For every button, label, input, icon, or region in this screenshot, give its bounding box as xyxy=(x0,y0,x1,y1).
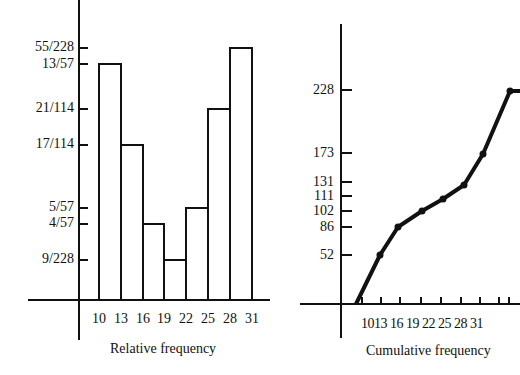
y-tick-label: 228 xyxy=(290,83,334,97)
y-tick-label: 13/57 xyxy=(4,57,74,71)
x-tick-label: 16 xyxy=(390,316,403,331)
y-tick-label: 131 xyxy=(290,175,334,189)
x-tick-label: 28 xyxy=(219,312,241,326)
left-x-caption: Relative frequency xyxy=(110,341,216,357)
x-tick-label: 25 xyxy=(197,312,219,326)
x-tick-label: 16 xyxy=(132,312,154,326)
right-x-caption: Cumulative frequency xyxy=(366,343,491,359)
y-tick-label: 52 xyxy=(290,248,334,262)
bars xyxy=(99,48,252,300)
y-tick-label: 86 xyxy=(290,220,334,234)
x-tick-label: 25 xyxy=(438,316,451,331)
y-tick-label: 55/228 xyxy=(4,40,74,54)
x-tick-label: 13 xyxy=(110,312,132,326)
x-tick-label: 19 xyxy=(153,312,175,326)
y-tick-label: 5/57 xyxy=(4,200,74,214)
x-tick-label: 31 xyxy=(470,316,483,331)
y-tick-label: 111 xyxy=(290,189,334,203)
x-tick-label: 22 xyxy=(175,312,197,326)
x-tick-label: 10 xyxy=(361,316,374,331)
x-tick-label: 31 xyxy=(241,312,263,326)
left-y-ticks xyxy=(79,48,88,260)
x-tick-label: 22 xyxy=(422,316,435,331)
y-tick-label: 4/57 xyxy=(4,216,74,230)
y-tick-label: 17/114 xyxy=(4,137,74,151)
cumulative-line xyxy=(356,91,520,304)
x-tick-label: 13 xyxy=(374,316,387,331)
x-tick-label: 10 xyxy=(88,312,110,326)
data-points xyxy=(377,88,514,259)
right-x-ticks xyxy=(362,297,509,304)
x-tick-label: 19 xyxy=(406,316,419,331)
y-tick-label: 173 xyxy=(290,146,334,160)
right-y-ticks xyxy=(341,90,352,255)
right-x-tick-labels: 1013 16 1922 25 2831 xyxy=(361,316,483,332)
y-tick-label: 102 xyxy=(290,204,334,218)
y-tick-label: 21/114 xyxy=(4,101,74,115)
x-tick-label: 28 xyxy=(454,316,467,331)
y-tick-label: 9/228 xyxy=(4,252,74,266)
